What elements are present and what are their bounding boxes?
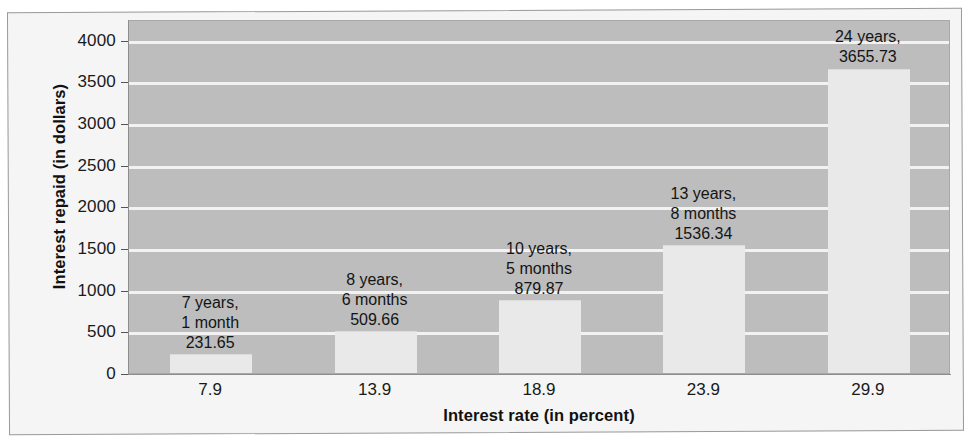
y-tick-mark (121, 291, 128, 292)
bar-chart-figure: 05001000150020002500300035004000 7.913.9… (0, 0, 976, 442)
gridline (129, 207, 949, 210)
y-axis-line (128, 20, 129, 375)
y-axis-title: Interest repaid (in dollars) (50, 27, 69, 347)
gridline (129, 124, 949, 127)
bar (663, 245, 745, 373)
x-tick-label: 7.9 (198, 380, 222, 400)
gridline (129, 82, 949, 85)
x-tick-label: 18.9 (522, 380, 555, 400)
y-tick-label: 0 (46, 364, 116, 384)
y-tick-mark (121, 82, 128, 83)
y-tick-mark (121, 207, 128, 208)
x-tick-label: 23.9 (687, 380, 720, 400)
bar (170, 354, 252, 373)
gridline (129, 291, 949, 294)
x-axis-title: Interest rate (in percent) (128, 406, 950, 425)
x-axis-line (128, 374, 951, 375)
bar (499, 300, 581, 373)
y-tick-mark (121, 374, 128, 375)
y-tick-mark (121, 249, 128, 250)
y-tick-mark (121, 41, 128, 42)
gridline (129, 249, 949, 252)
gridline (129, 166, 949, 169)
bar (828, 69, 910, 374)
x-tick-label: 13.9 (358, 380, 391, 400)
y-tick-mark (121, 166, 128, 167)
y-tick-mark (121, 332, 128, 333)
bar (335, 331, 417, 373)
y-tick-mark (121, 124, 128, 125)
gridline (129, 41, 949, 44)
plot-area (128, 20, 950, 374)
x-tick-label: 29.9 (851, 380, 884, 400)
